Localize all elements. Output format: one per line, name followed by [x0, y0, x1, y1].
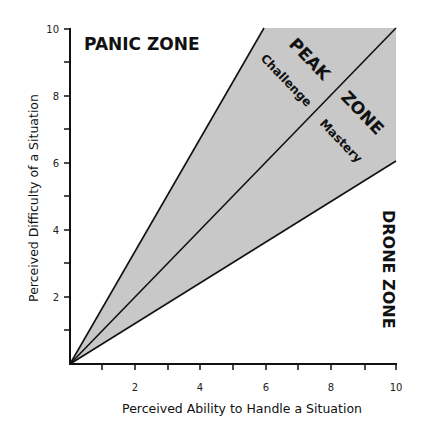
- x-axis: [69, 364, 397, 370]
- x-tick-6: 6: [263, 382, 269, 393]
- x-tick-10: 10: [390, 382, 403, 393]
- y-tick-6: 6: [53, 158, 59, 169]
- y-tick-10: 10: [46, 24, 59, 35]
- y-tick-2: 2: [53, 292, 59, 303]
- x-axis-title: Perceived Ability to Handle a Situation: [122, 401, 362, 416]
- x-tick-4: 4: [197, 382, 203, 393]
- x-tick-8: 8: [328, 382, 334, 393]
- x-tick-2: 2: [132, 382, 138, 393]
- zone-diagram: 10 8 6 4 2 2 4 6 8 10 Perceived Ability …: [0, 0, 427, 439]
- panic-zone-label: PANIC ZONE: [84, 34, 200, 54]
- y-axis: [64, 28, 70, 365]
- drone-zone-label: DRONE ZONE: [379, 210, 398, 329]
- diagonal-line: [70, 28, 396, 364]
- y-tick-4: 4: [53, 225, 59, 236]
- y-tick-8: 8: [53, 91, 59, 102]
- y-axis-title: Perceived Difficulty of a Situation: [26, 94, 41, 302]
